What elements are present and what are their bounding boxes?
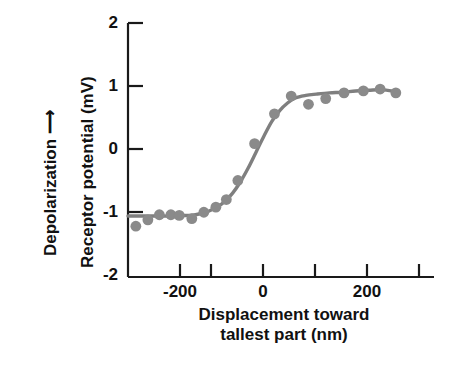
data-point [142,214,153,225]
plot-area [0,0,460,300]
data-series [128,84,401,232]
y-axis-title: Receptor potential (mV) [78,76,98,268]
data-point [186,213,197,224]
axes-group [128,23,434,277]
x-tick-marks [180,264,419,277]
y-tick-marks [128,23,143,212]
x-tick-label-0: 0 [238,282,288,302]
y-tick-label-neg1: -1 [88,202,118,222]
data-point [174,210,185,221]
depolarization-axis-label: Depolarization ⟶ [40,110,61,256]
data-point [303,99,314,110]
data-point [339,87,350,98]
data-point [358,86,369,97]
fit-curve [128,90,396,216]
data-point [390,87,401,98]
y-tick-label-neg2: -2 [88,265,118,285]
data-point [269,108,280,119]
x-axis-title: Displacement toward tallest part (nm) [128,305,440,345]
data-point [232,175,243,186]
data-point [210,202,221,213]
data-point [130,221,141,232]
data-point [221,194,232,205]
data-point [320,93,331,104]
y-tick-label-2: 2 [96,13,118,33]
data-point [198,207,209,218]
x-tick-label-neg200: -200 [150,282,210,302]
data-point [249,138,260,149]
x-tick-label-200: 200 [340,282,394,302]
x-axis-title-line1: Displacement toward [128,305,440,325]
data-point [286,91,297,102]
x-axis-title-line2: tallest part (nm) [128,325,440,345]
data-point [154,209,165,220]
y-tick-label-0: 0 [96,139,118,159]
chart-figure: Depolarization ⟶ Receptor potential (mV) [0,0,460,365]
y-tick-label-1: 1 [96,76,118,96]
data-points [130,84,401,232]
data-point [375,84,386,95]
